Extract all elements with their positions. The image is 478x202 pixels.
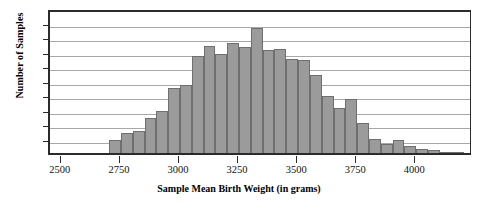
- y-tick-mark: [43, 68, 48, 69]
- histogram-bar: [109, 140, 121, 153]
- histogram-bar: [274, 49, 286, 153]
- histogram-bar: [145, 118, 157, 153]
- y-tick-mark: [43, 39, 48, 40]
- histogram-bar: [369, 139, 381, 154]
- x-tick-mark: [414, 156, 415, 163]
- histogram-bar: [428, 150, 440, 153]
- y-tick-mark: [43, 112, 48, 113]
- histogram-bar: [263, 50, 275, 153]
- histogram-bar: [393, 140, 405, 153]
- x-tick-mark: [355, 156, 356, 163]
- histogram-bar: [156, 111, 168, 153]
- x-tick-mark: [237, 156, 238, 163]
- histogram-bar: [310, 75, 322, 153]
- histogram-bar: [357, 123, 369, 153]
- histogram-bar: [298, 60, 310, 153]
- y-tick-mark: [43, 54, 48, 55]
- x-tick-label: 3250: [207, 165, 267, 176]
- histogram-bar: [168, 88, 180, 153]
- y-tick-mark: [43, 126, 48, 127]
- y-tick-mark: [43, 97, 48, 98]
- histogram-bar: [440, 152, 452, 153]
- histogram-bar: [215, 54, 227, 153]
- x-tick-label: 2500: [30, 165, 90, 176]
- x-axis-title: Sample Mean Birth Weight (in grams): [0, 183, 478, 194]
- histogram-bar: [404, 146, 416, 153]
- y-tick-mark: [43, 141, 48, 142]
- bar-series: [50, 12, 470, 153]
- histogram-bar: [227, 43, 239, 153]
- plot-area: [48, 10, 471, 155]
- histogram-bar: [322, 96, 334, 153]
- x-tick-label: 3000: [148, 165, 208, 176]
- histogram-figure: Number of Samples 0102030405060708090100…: [0, 0, 478, 202]
- x-tick-mark: [119, 156, 120, 163]
- histogram-bar: [334, 108, 346, 153]
- histogram-bar: [192, 56, 204, 153]
- x-tick-mark: [178, 156, 179, 163]
- histogram-bar: [239, 47, 251, 153]
- histogram-bar: [381, 144, 393, 153]
- y-axis-title: Number of Samples: [14, 0, 25, 121]
- x-tick-mark: [296, 156, 297, 163]
- x-tick-label: 3750: [325, 165, 385, 176]
- x-tick-label: 3500: [266, 165, 326, 176]
- histogram-bar: [416, 149, 428, 153]
- histogram-bar: [133, 131, 145, 153]
- y-tick-mark: [43, 83, 48, 84]
- histogram-bar: [121, 133, 133, 153]
- histogram-bar: [345, 99, 357, 153]
- histogram-bar: [204, 46, 216, 153]
- x-tick-mark: [60, 156, 61, 163]
- histogram-bar: [286, 59, 298, 153]
- histogram-bar: [452, 152, 464, 153]
- histogram-bar: [180, 85, 192, 153]
- x-tick-label: 4000: [384, 165, 444, 176]
- histogram-bar: [251, 28, 263, 153]
- y-tick-mark: [43, 25, 48, 26]
- x-tick-label: 2750: [89, 165, 149, 176]
